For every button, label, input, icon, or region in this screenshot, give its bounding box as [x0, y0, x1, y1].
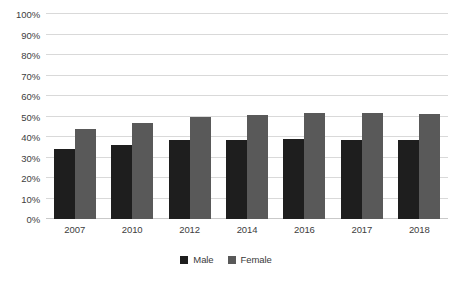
bars-layer [46, 14, 448, 219]
bar-group [226, 14, 268, 219]
bar-group [341, 14, 383, 219]
x-axis-tick-label: 2018 [409, 224, 430, 235]
y-axis-tick-label: 30% [0, 152, 40, 163]
y-axis-tick-label: 90% [0, 29, 40, 40]
bar-group [283, 14, 325, 219]
bar-female-2017 [362, 113, 383, 219]
bar-male-2017 [341, 140, 362, 219]
legend-item-male[interactable]: Male [180, 254, 213, 265]
legend-label: Male [193, 254, 213, 265]
bar-female-2014 [247, 115, 268, 219]
bar-male-2016 [283, 139, 304, 219]
y-axis-tick-label: 10% [0, 193, 40, 204]
bar-group [169, 14, 211, 219]
y-axis-tick-label: 0% [0, 214, 40, 225]
y-axis-tick-label: 100% [0, 9, 40, 20]
bar-female-2010 [132, 123, 153, 219]
y-axis-tick-label: 60% [0, 91, 40, 102]
bar-female-2007 [75, 129, 96, 219]
bar-group [54, 14, 96, 219]
bar-male-2014 [226, 140, 247, 219]
legend-label: Female [241, 254, 272, 265]
bar-chart: 0%10%20%30%40%50%60%70%80%90%100% 200720… [0, 0, 452, 284]
x-axis-tick-label: 2012 [179, 224, 200, 235]
x-axis: 2007201020122014201620172018 [46, 224, 448, 242]
bar-male-2007 [54, 149, 75, 219]
x-axis-tick-label: 2010 [122, 224, 143, 235]
bar-male-2012 [169, 140, 190, 219]
legend-swatch-icon [228, 256, 236, 264]
y-axis: 0%10%20%30%40%50%60%70%80%90%100% [0, 14, 40, 219]
bar-female-2012 [190, 117, 211, 220]
y-axis-tick-label: 50% [0, 111, 40, 122]
bar-group [111, 14, 153, 219]
y-axis-tick-label: 20% [0, 173, 40, 184]
bar-female-2016 [304, 113, 325, 219]
x-axis-tick-label: 2014 [237, 224, 258, 235]
bar-group [398, 14, 440, 219]
bar-female-2018 [419, 114, 440, 219]
y-axis-tick-label: 80% [0, 50, 40, 61]
legend-item-female[interactable]: Female [228, 254, 272, 265]
y-axis-tick-label: 40% [0, 132, 40, 143]
x-axis-tick-label: 2016 [294, 224, 315, 235]
y-axis-tick-label: 70% [0, 70, 40, 81]
legend-swatch-icon [180, 256, 188, 264]
x-axis-tick-label: 2017 [351, 224, 372, 235]
chart-legend: MaleFemale [0, 254, 452, 265]
bar-male-2018 [398, 140, 419, 219]
x-axis-tick-label: 2007 [64, 224, 85, 235]
bar-male-2010 [111, 145, 132, 219]
